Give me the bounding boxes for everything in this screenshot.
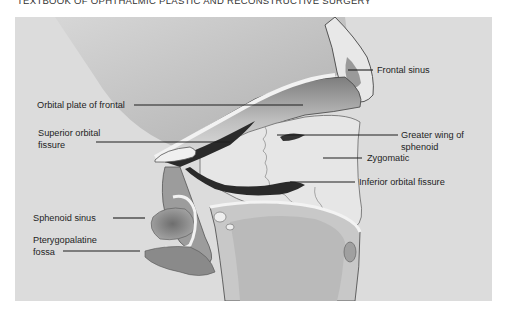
label-inferior-orbital-fissure: Inferior orbital fissure (359, 176, 445, 188)
label-pterygopalatine-line2: fossa (33, 246, 55, 258)
label-superior-orbital-fissure-line1: Superior orbital (38, 127, 100, 139)
running-head: TEXTBOOK OF OPHTHALMIC PLASTIC AND RECON… (17, 0, 371, 6)
label-zygomatic: Zygomatic (367, 152, 409, 164)
label-sphenoid-sinus: Sphenoid sinus (33, 212, 96, 224)
label-greater-wing-line1: Greater wing of (401, 129, 464, 141)
label-pterygopalatine-line1: Pterygopalatine (33, 234, 97, 246)
label-orbital-plate: Orbital plate of frontal (37, 99, 125, 111)
label-frontal-sinus: Frontal sinus (377, 64, 430, 76)
orbit-drawing (15, 17, 492, 301)
label-superior-orbital-fissure-line2: fissure (38, 139, 65, 151)
anatomical-illustration: Frontal sinus Orbital plate of frontal S… (15, 17, 492, 301)
